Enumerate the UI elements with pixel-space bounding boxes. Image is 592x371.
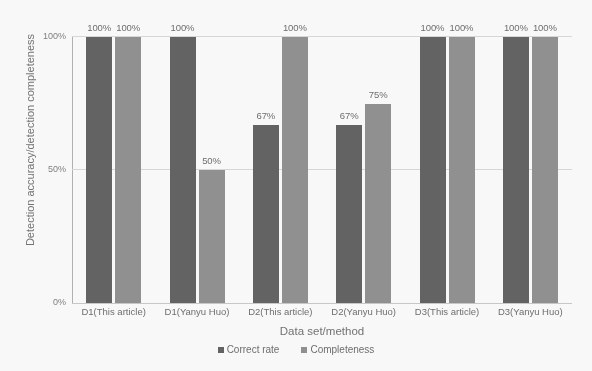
- category-label: D1(Yanyu Huo): [165, 306, 230, 317]
- y-axis-title: Detection accuracy/detection completenes…: [24, 0, 36, 280]
- bar-correct-rate: [253, 125, 279, 303]
- bar-completeness: [449, 37, 475, 303]
- category-label: D3(This article): [415, 306, 479, 317]
- bar-completeness: [282, 37, 308, 303]
- bar-correct-rate: [86, 37, 112, 303]
- y-axis-title-container: Detection accuracy/detection completenes…: [18, 30, 38, 310]
- y-tick-label: 100%: [40, 31, 66, 41]
- data-label: 100%: [533, 22, 557, 33]
- data-label: 100%: [421, 22, 445, 33]
- legend-swatch-icon: [301, 347, 307, 353]
- bar-correct-rate: [170, 37, 196, 303]
- gridline-50: [72, 169, 572, 170]
- bar-completeness: [365, 104, 391, 304]
- legend-item-completeness[interactable]: Completeness: [301, 344, 374, 355]
- bar-correct-rate: [420, 37, 446, 303]
- x-axis-title: Data set/method: [72, 325, 572, 337]
- gridline-100: [72, 36, 572, 37]
- x-axis-line: [72, 303, 572, 304]
- category-label: D3(Yanyu Huo): [498, 306, 563, 317]
- legend-item-correct-rate[interactable]: Correct rate: [218, 344, 280, 355]
- data-label: 75%: [369, 89, 388, 100]
- chart-legend: Correct rateCompleteness: [0, 344, 592, 355]
- legend-label: Completeness: [310, 344, 374, 355]
- data-label: 100%: [283, 22, 307, 33]
- bar-completeness: [115, 37, 141, 303]
- category-label: D1(This article): [81, 306, 145, 317]
- data-label: 100%: [116, 22, 140, 33]
- data-label: 100%: [504, 22, 528, 33]
- legend-label: Correct rate: [227, 344, 280, 355]
- bar-correct-rate: [336, 125, 362, 303]
- bar-completeness: [199, 170, 225, 303]
- category-label: D2(This article): [248, 306, 312, 317]
- data-label: 100%: [171, 22, 195, 33]
- plot-area: [72, 37, 572, 303]
- y-tick-label: 0%: [40, 297, 66, 307]
- data-label: 100%: [450, 22, 474, 33]
- data-label: 67%: [256, 110, 275, 121]
- legend-swatch-icon: [218, 347, 224, 353]
- bar-correct-rate: [503, 37, 529, 303]
- data-label: 100%: [87, 22, 111, 33]
- category-label: D2(Yanyu Huo): [331, 306, 396, 317]
- bar-completeness: [532, 37, 558, 303]
- y-tick-label: 50%: [40, 164, 66, 174]
- data-label: 67%: [340, 110, 359, 121]
- bar-chart-figure: Detection accuracy/detection completenes…: [0, 0, 592, 371]
- data-label: 50%: [202, 155, 221, 166]
